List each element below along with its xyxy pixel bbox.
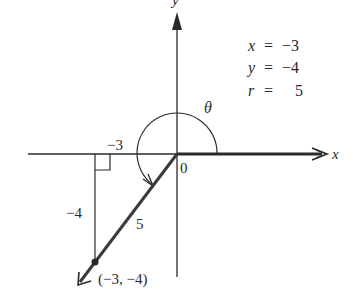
terminal-side-diagram: y x 0 θ −3 −4 5 (−3, −4) x = −3 y = −4 r…: [0, 0, 353, 307]
hypotenuse-label: 5: [136, 216, 144, 232]
y-axis-arrow-icon: [172, 12, 182, 30]
legend-x-var: x: [247, 37, 255, 54]
angle-label: θ: [204, 99, 212, 116]
legend-y-var: y: [246, 59, 256, 77]
point-label: (−3, −4): [98, 271, 147, 288]
legend-r-value: 5: [295, 82, 303, 99]
origin-label: 0: [180, 160, 188, 176]
horizontal-side-label: −3: [107, 137, 123, 153]
legend-r-eq: =: [264, 82, 273, 99]
legend-y-eq: =: [264, 59, 273, 76]
legend: x = −3 y = −4 r = 5: [246, 37, 303, 99]
right-angle-marker: [95, 154, 110, 170]
legend-y-value: −4: [282, 59, 299, 76]
vertical-side-label: −4: [66, 205, 82, 221]
x-axis-label: x: [331, 146, 339, 162]
legend-r-var: r: [248, 82, 255, 99]
point-marker: [92, 259, 99, 266]
y-axis-label: y: [170, 0, 179, 8]
legend-x-eq: =: [264, 37, 273, 54]
legend-x-value: −3: [282, 37, 299, 54]
